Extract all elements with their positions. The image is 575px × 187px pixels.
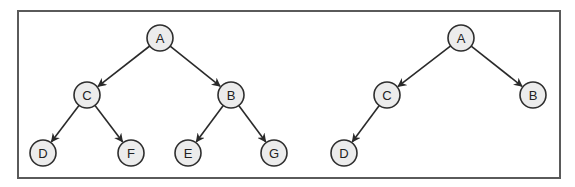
node-label: A bbox=[457, 31, 466, 46]
left-tree-edge-b-to-g bbox=[239, 105, 266, 141]
right-tree-node-a: A bbox=[448, 25, 474, 51]
node-label: E bbox=[184, 146, 193, 161]
left-tree-node-f: F bbox=[118, 140, 144, 166]
node-label: G bbox=[269, 146, 279, 161]
left-tree-edge-a-to-c bbox=[98, 46, 150, 86]
right-tree-node-c: C bbox=[374, 82, 400, 108]
left-tree-edge-b-to-e bbox=[196, 105, 223, 141]
node-label: D bbox=[38, 146, 47, 161]
left-tree-node-a: A bbox=[147, 25, 173, 51]
diagram-canvas: ACBDFEGACBD bbox=[0, 0, 575, 187]
node-label: B bbox=[227, 88, 236, 103]
node-label: C bbox=[82, 88, 91, 103]
left-tree-node-b: B bbox=[218, 82, 244, 108]
edges-layer bbox=[51, 46, 522, 142]
node-label: A bbox=[156, 31, 165, 46]
left-tree-node-g: G bbox=[261, 140, 287, 166]
right-tree-edge-c-to-d bbox=[352, 105, 379, 141]
left-tree-node-d: D bbox=[30, 140, 56, 166]
nodes-layer: ACBDFEGACBD bbox=[30, 25, 546, 166]
left-tree-edge-c-to-f bbox=[95, 105, 123, 141]
right-tree-edge-a-to-c bbox=[398, 46, 451, 87]
left-tree-edge-a-to-b bbox=[170, 46, 220, 86]
right-tree-node-b: B bbox=[520, 82, 546, 108]
node-label: B bbox=[529, 88, 538, 103]
node-label: C bbox=[382, 88, 391, 103]
node-label: D bbox=[339, 146, 348, 161]
left-tree-edge-c-to-d bbox=[51, 105, 79, 141]
right-tree-node-d: D bbox=[331, 140, 357, 166]
left-tree-node-e: E bbox=[175, 140, 201, 166]
node-label: F bbox=[127, 146, 135, 161]
right-tree-edge-a-to-b bbox=[471, 46, 522, 86]
left-tree-node-c: C bbox=[74, 82, 100, 108]
